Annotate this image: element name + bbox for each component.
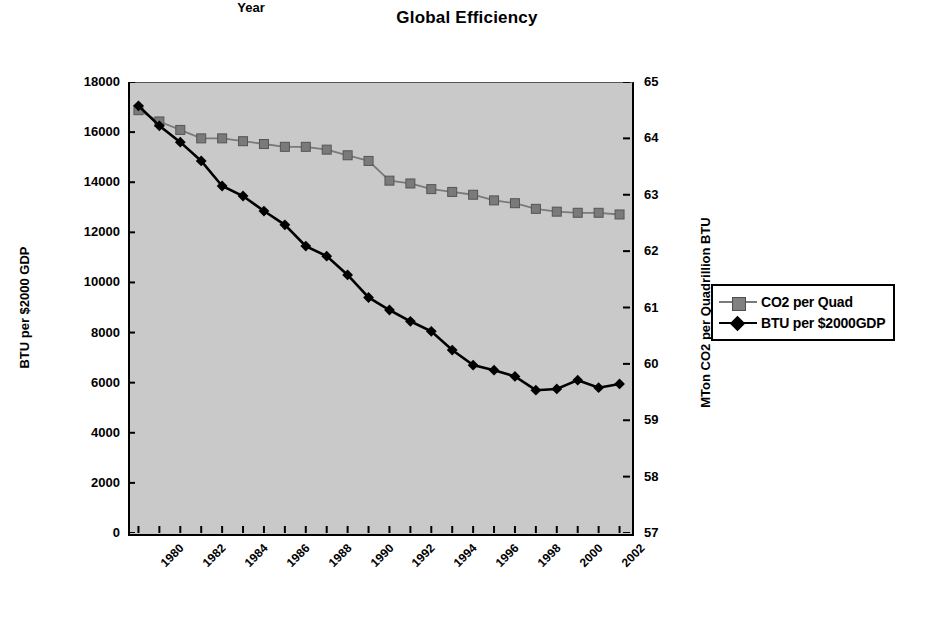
y-axis-right-tick-label: 60 xyxy=(644,357,684,370)
series-line-0 xyxy=(138,110,619,214)
y-axis-left-tick-label: 18000 xyxy=(58,75,120,88)
series-line-1 xyxy=(138,106,619,390)
y-axis-right-tick-label: 58 xyxy=(644,470,684,483)
data-point-marker xyxy=(615,210,624,219)
data-point-marker xyxy=(176,125,185,134)
data-point-marker xyxy=(280,142,289,151)
data-point-marker xyxy=(343,151,352,160)
data-point-marker xyxy=(427,185,436,194)
data-point-marker xyxy=(197,134,206,143)
data-point-marker xyxy=(593,382,604,393)
data-point-marker xyxy=(218,134,227,143)
legend-label: BTU per $2000GDP xyxy=(761,315,885,331)
legend-item-btu-per-2000gdp: BTU per $2000GDP xyxy=(719,312,885,333)
data-point-marker xyxy=(551,384,562,395)
data-point-marker xyxy=(406,179,415,188)
data-point-marker xyxy=(614,379,625,390)
x-axis-tick-label: 2000 xyxy=(577,541,606,570)
plot-svg xyxy=(128,82,630,533)
legend-label: CO2 per Quad xyxy=(761,294,853,310)
legend-swatch-square-icon xyxy=(719,294,757,310)
x-axis-tick-label: 1992 xyxy=(409,541,438,570)
y-axis-left-tick-label: 10000 xyxy=(58,275,120,288)
data-point-marker xyxy=(322,145,331,154)
y-axis-right-tick-label: 61 xyxy=(644,301,684,314)
data-point-marker xyxy=(490,196,499,205)
x-axis-tick-label: 1982 xyxy=(200,541,229,570)
y-axis-right-tick-label: 63 xyxy=(644,188,684,201)
x-axis-tick-label: 1998 xyxy=(535,541,564,570)
data-point-marker xyxy=(573,208,582,217)
x-axis-tick-label: 1986 xyxy=(284,541,313,570)
x-axis-tick-label: 1980 xyxy=(158,541,187,570)
y-axis-right-tick-label: 57 xyxy=(644,526,684,539)
data-point-marker xyxy=(384,305,395,316)
x-axis-tick-label: 1996 xyxy=(493,541,522,570)
data-point-marker xyxy=(510,199,519,208)
x-axis-tick-label: 1990 xyxy=(367,541,396,570)
data-point-marker xyxy=(594,208,603,217)
y-axis-right-tick-label: 59 xyxy=(644,413,684,426)
data-point-marker xyxy=(552,207,561,216)
x-axis-tick-label: 1988 xyxy=(326,541,355,570)
y-axis-right-tick-label: 64 xyxy=(644,131,684,144)
y-axis-left-tick-label: 8000 xyxy=(58,326,120,339)
y-axis-left-tick-label: 0 xyxy=(58,526,120,539)
y-axis-left-tick-label: 2000 xyxy=(58,476,120,489)
chart-title: Global Efficiency xyxy=(0,8,934,28)
data-point-marker xyxy=(385,176,394,185)
chart-legend: CO2 per Quad BTU per $2000GDP xyxy=(711,284,895,341)
data-point-marker xyxy=(531,204,540,213)
y-axis-right-tick-label: 62 xyxy=(644,244,684,257)
y-axis-left-tick-label: 16000 xyxy=(58,125,120,138)
x-axis-tick-label: 1984 xyxy=(242,541,271,570)
y-axis-left-tick-label: 4000 xyxy=(58,426,120,439)
legend-item-co2-per-quad: CO2 per Quad xyxy=(719,291,885,312)
y-axis-left-tick-label: 12000 xyxy=(58,225,120,238)
y-axis-left-tick-label: 6000 xyxy=(58,376,120,389)
legend-swatch-diamond-icon xyxy=(719,315,757,331)
data-point-marker xyxy=(364,156,373,165)
data-point-marker xyxy=(469,190,478,199)
data-point-marker xyxy=(489,365,500,376)
data-point-marker xyxy=(572,375,583,386)
x-axis-tick-label: 1994 xyxy=(451,541,480,570)
y-axis-left-tick-label: 14000 xyxy=(58,175,120,188)
data-point-marker xyxy=(405,316,416,327)
data-point-marker xyxy=(239,137,248,146)
x-axis-tick-label: 2002 xyxy=(618,541,647,570)
y-axis-right-tick-label: 65 xyxy=(644,75,684,88)
y-axis-left-title: BTU per $2000 GDP xyxy=(17,178,32,438)
data-point-marker xyxy=(448,187,457,196)
data-point-marker xyxy=(259,140,268,149)
data-point-marker xyxy=(301,142,310,151)
chart-figure: Global Efficiency BTU per $2000 GDP MTon… xyxy=(0,0,934,642)
